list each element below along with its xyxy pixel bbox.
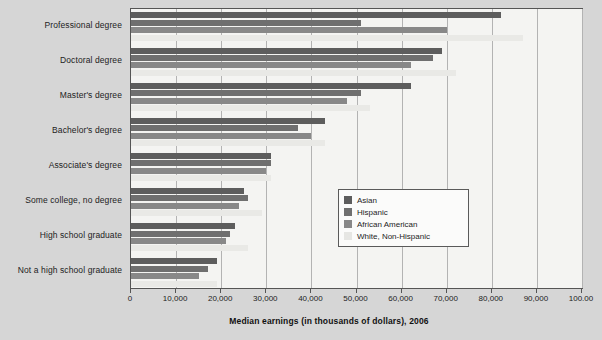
axis-tick-label: 80,000 [479, 294, 503, 303]
axis-tick [581, 289, 582, 293]
axis-tick-label: 60,000 [388, 294, 412, 303]
axis-tick-label: 30,000 [253, 294, 277, 303]
axis-tick [130, 289, 131, 293]
category-label: Associate's degree [0, 160, 122, 170]
axis-tick [401, 289, 402, 293]
axis-tick [310, 289, 311, 293]
axis-tick-label: 50,000 [343, 294, 367, 303]
category-label: Some college, no degree [0, 195, 122, 205]
legend-swatch-icon [344, 196, 352, 204]
axis-tick [446, 289, 447, 293]
axis-tick-label: 0 [128, 294, 132, 303]
legend-item[interactable]: White, Non-Hispanic [344, 230, 463, 242]
legend-swatch-icon [344, 220, 352, 228]
legend-item[interactable]: Hispanic [344, 206, 463, 218]
category-label: Not a high school graduate [0, 265, 122, 275]
legend: Asian Hispanic African American White, N… [338, 189, 469, 247]
axis-tick [491, 289, 492, 293]
legend-item[interactable]: Asian [344, 194, 463, 206]
axis-tick-label: 90,000 [524, 294, 548, 303]
axis-tick [175, 289, 176, 293]
category-label: Master's degree [0, 90, 122, 100]
axis-tick-label: 100.00 [569, 294, 593, 303]
legend-label: African American [357, 220, 417, 229]
axis-tick [220, 289, 221, 293]
axis-tick-label: 70,000 [433, 294, 457, 303]
axis-tick-label: 40,000 [298, 294, 322, 303]
legend-swatch-icon [344, 208, 352, 216]
legend-label: Asian [357, 196, 377, 205]
category-label: Professional degree [0, 20, 122, 30]
axis-tick [536, 289, 537, 293]
value-axis: 010,00020,00030,00040,00050,00060,00070,… [130, 289, 583, 307]
axis-title: Median earnings (in thousands of dollars… [0, 316, 602, 326]
legend-label: White, Non-Hispanic [357, 232, 430, 241]
axis-tick-label: 10,000 [163, 294, 187, 303]
axis-tick [265, 289, 266, 293]
axis-title-text: Median earnings (in thousands of dollars… [229, 316, 428, 326]
axis-tick [356, 289, 357, 293]
category-label: High school graduate [0, 230, 122, 240]
legend-swatch-icon [344, 232, 352, 240]
category-label: Bachelor's degree [0, 125, 122, 135]
legend-item[interactable]: African American [344, 218, 463, 230]
category-label: Doctoral degree [0, 55, 122, 65]
category-axis-labels: Professional degreeDoctoral degreeMaster… [0, 8, 602, 289]
legend-label: Hispanic [357, 208, 388, 217]
axis-tick-label: 20,000 [208, 294, 232, 303]
chart-figure: Professional degreeDoctoral degreeMaster… [0, 0, 602, 340]
